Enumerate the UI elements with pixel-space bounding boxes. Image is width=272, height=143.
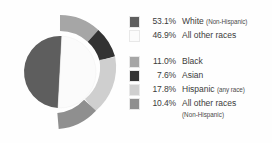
legend-value: 53.1% [145,15,176,28]
legend-label-qualifier: (any race) [217,86,245,93]
outer-slice-black [60,23,93,36]
legend-label-qualifier: (Non-Hispanic) [206,18,247,25]
legend-item[interactable]: 10.4% All other races(Non-Hispanic) [129,97,272,119]
legend-label: White (Non-Hispanic) [176,15,272,28]
legend-swatch-hispanic [129,84,140,96]
legend-swatch-all-other-races [129,30,140,42]
legend-value: 17.8% [145,83,176,96]
legend-group-secondary: 11.0% Black 7.6% Asian 17.8% Hispanic (a… [129,55,272,119]
outer-slice-asian [93,36,107,59]
legend-label-sub: (Non-Hispanic) [182,110,272,119]
chart-svg [14,4,130,140]
legend-label-text: All other races [182,98,236,108]
legend-item[interactable]: 7.6% Asian [129,69,272,83]
legend-label-text: Black [182,56,203,66]
legend-item[interactable]: 11.0% Black [129,55,272,69]
legend-item[interactable]: 53.1% White (Non-Hispanic) [129,15,272,29]
legend-label: All other races(Non-Hispanic) [176,97,272,119]
legend-group-primary: 53.1% White (Non-Hispanic) 46.9% All oth… [129,15,272,43]
inner-pie-group [24,36,96,108]
legend-swatch-asian [129,70,140,82]
legend-label-text: All other races [182,30,236,40]
legend-value: 7.6% [145,69,176,82]
legend-label: Asian [176,69,272,82]
inner-slice-white [24,36,62,108]
legend-label-text: White [182,16,204,26]
legend-value: 11.0% [145,55,176,68]
legend-label-text: Hispanic [182,84,215,94]
legend-label-text: Asian [182,70,203,80]
legend-value: 10.4% [145,97,176,110]
legend-swatch-all-other-races-nonhispanic [129,98,140,110]
legend: 53.1% White (Non-Hispanic) 46.9% All oth… [129,12,272,137]
legend-item[interactable]: 17.8% Hispanic (any race) [129,83,272,97]
legend-item[interactable]: 46.9% All other races [129,29,272,43]
legend-swatch-white-nonhispanic [129,16,140,28]
legend-value: 46.9% [145,29,176,42]
legend-label: Hispanic (any race) [176,83,272,96]
donut-pie-chart [14,4,130,140]
legend-label: Black [176,55,272,68]
legend-swatch-black [129,56,140,68]
legend-label: All other races [176,29,272,42]
chart-figure-container: 53.1% White (Non-Hispanic) 46.9% All oth… [0,0,272,143]
